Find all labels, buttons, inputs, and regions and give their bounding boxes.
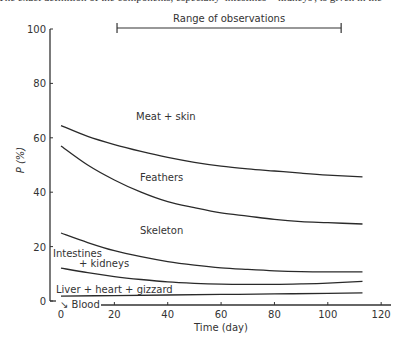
- y-axis-label: P (%): [15, 147, 26, 174]
- series-label: + kidneys: [79, 258, 129, 269]
- y-tick-label: 20: [33, 242, 46, 253]
- y-tick-label: 0: [40, 296, 46, 307]
- y-tick-label: 40: [33, 187, 46, 198]
- x-tick-label: 120: [372, 309, 391, 320]
- series-labels: Meat + skinFeathersSkeletonIntestines+ k…: [53, 111, 196, 310]
- x-tick-label: 60: [215, 309, 228, 320]
- range-annotation-label: Range of observations: [173, 13, 285, 24]
- y-tick-label: 100: [27, 24, 46, 35]
- x-tick-label: 80: [268, 309, 281, 320]
- line-chart: 020406080100020406080100120P (%)Range of…: [0, 0, 401, 342]
- x-tick-label: 0: [58, 309, 64, 320]
- series-line: [61, 126, 362, 177]
- y-tick-label: 80: [33, 78, 46, 89]
- series-line: [61, 268, 362, 284]
- x-axis-label: Time (day): [193, 322, 248, 333]
- series-label: ↘ Blood: [60, 299, 100, 310]
- x-tick-label: 40: [161, 309, 174, 320]
- x-tick-label: 20: [108, 309, 121, 320]
- series-label: Feathers: [140, 172, 183, 183]
- x-tick-label: 100: [318, 309, 337, 320]
- series-label: Meat + skin: [136, 111, 196, 122]
- axes: 020406080100020406080100120P (%)Range of…: [15, 13, 391, 320]
- series-label: Skeleton: [140, 225, 183, 236]
- series-line: [61, 146, 362, 224]
- series-label: Liver + heart + gizzard: [56, 284, 173, 295]
- series-lines: [61, 126, 362, 297]
- y-tick-label: 60: [33, 133, 46, 144]
